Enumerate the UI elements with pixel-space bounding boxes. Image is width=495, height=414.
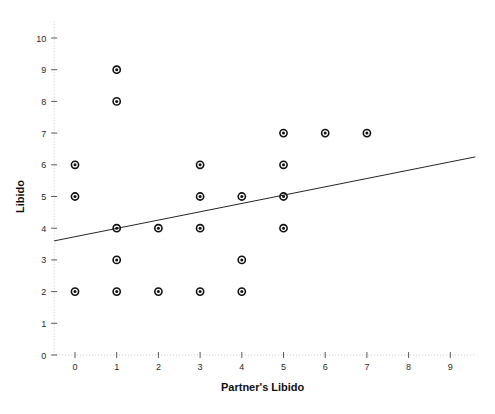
data-point [113,66,120,73]
x-tick-label-2: 2 [156,362,161,372]
y-tick-label-2: 2 [41,287,46,297]
x-tick-label-7: 7 [364,362,369,372]
data-point-center-19 [282,195,285,198]
data-points-group [71,66,370,295]
x-tick-label-9: 9 [448,362,453,372]
data-point [280,161,287,168]
data-point-center-10 [199,163,202,166]
data-point-center-15 [240,258,243,261]
data-point [71,288,78,295]
data-point-center-22 [365,132,368,135]
y-tick-label-3: 3 [41,255,46,265]
x-tick-label-1: 1 [114,362,119,372]
x-tick-label-0: 0 [72,362,77,372]
data-point [238,193,245,200]
data-point-center-21 [324,132,327,135]
data-point-center-4 [115,100,118,103]
data-point-center-7 [115,290,118,293]
x-tick-label-3: 3 [198,362,203,372]
y-tick-label-0: 0 [41,351,46,361]
data-point [238,256,245,263]
data-point [113,98,120,105]
data-point [197,193,204,200]
data-point-center-14 [240,195,243,198]
data-point [71,161,78,168]
y-tick-label-8: 8 [41,97,46,107]
data-point [322,130,329,137]
data-point-center-6 [115,258,118,261]
y-tick-label-1: 1 [41,319,46,329]
y-tick-label-9: 9 [41,65,46,75]
data-point-center-2 [74,290,77,293]
x-tick-label-6: 6 [323,362,328,372]
x-axis-title: Partner's Libido [221,381,305,393]
data-point-center-12 [199,227,202,230]
data-point-center-5 [115,227,118,230]
data-point-center-13 [199,290,202,293]
y-tick-label-7: 7 [41,129,46,139]
axes-group: 0123456789012345678910 [36,21,475,372]
data-point-center-20 [282,227,285,230]
data-point-center-16 [240,290,243,293]
y-tick-label-4: 4 [41,224,46,234]
data-point [363,130,370,137]
data-point-center-3 [115,68,118,71]
y-tick-label-5: 5 [41,192,46,202]
data-point [197,161,204,168]
axis-titles-group: Partner's LibidoLibido [14,180,305,393]
data-point-center-1 [74,195,77,198]
scatter-plot-figure: 0123456789012345678910 Partner's LibidoL… [0,0,495,414]
data-point [113,288,120,295]
plot-canvas: 0123456789012345678910 Partner's LibidoL… [0,0,495,414]
data-point [155,288,162,295]
data-point [238,288,245,295]
data-point [280,130,287,137]
y-axis-title: Libido [14,180,26,213]
data-point-center-9 [157,290,160,293]
data-point [197,288,204,295]
data-point-center-11 [199,195,202,198]
data-point [280,225,287,232]
y-tick-label-10: 10 [36,34,46,44]
data-point-center-8 [157,227,160,230]
data-point [113,256,120,263]
x-tick-label-4: 4 [239,362,244,372]
data-point-center-17 [282,132,285,135]
data-point-center-18 [282,163,285,166]
data-point-center-0 [74,163,77,166]
data-point [280,193,287,200]
x-tick-label-5: 5 [281,362,286,372]
x-tick-label-8: 8 [406,362,411,372]
data-point [71,193,78,200]
data-point [155,225,162,232]
data-point [197,225,204,232]
y-tick-label-6: 6 [41,160,46,170]
